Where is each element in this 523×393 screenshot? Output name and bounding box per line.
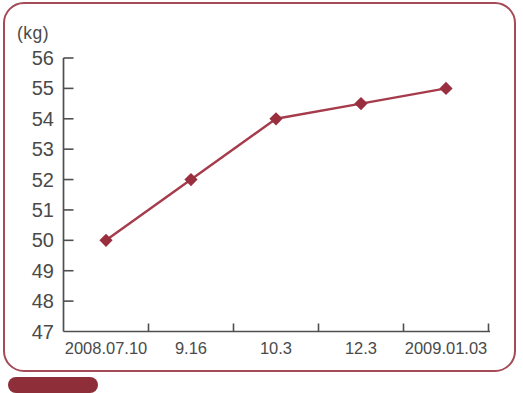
x-axis-category-label: 9.16 [175, 339, 207, 357]
x-axis-category-label: 2009.01.03 [405, 339, 488, 357]
y-axis-tick-label: 56 [32, 47, 54, 69]
x-axis-category-label: 10.3 [260, 339, 292, 357]
trend-line [106, 88, 446, 240]
y-axis-tick-label: 49 [32, 260, 54, 282]
y-axis-tick-label: 50 [32, 229, 54, 251]
y-axis-tick-label: 47 [32, 321, 54, 343]
y-axis-tick-label: 55 [32, 77, 54, 99]
x-axis-category-label: 2008.07.10 [65, 339, 148, 357]
y-axis-tick-label: 53 [32, 138, 54, 160]
y-axis-tick-label: 51 [32, 199, 54, 221]
x-axis-category-label: 12.3 [345, 339, 377, 357]
data-point-marker [354, 97, 367, 110]
data-point-marker [439, 82, 452, 95]
y-axis-tick-label: 48 [32, 290, 54, 312]
y-axis-tick-label: 54 [32, 108, 54, 130]
y-axis-tick-label: 52 [32, 169, 54, 191]
cut-off-badge [8, 377, 98, 393]
